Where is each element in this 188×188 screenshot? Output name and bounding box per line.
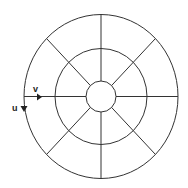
sector-divider (112, 107, 156, 154)
sector-divider (47, 39, 91, 86)
sector-divider (47, 107, 91, 154)
grid (24, 15, 178, 179)
v-axis-label: v (33, 84, 38, 94)
u-axis-label: u (12, 103, 18, 113)
u-axis-arrow (21, 106, 28, 112)
polar-grid-diagram: v u (0, 0, 188, 188)
inner-ring (86, 81, 116, 112)
sector-divider (112, 39, 156, 86)
u-arrowhead-icon (21, 106, 28, 112)
v-axis-arrow (37, 94, 42, 101)
v-arrowhead-icon (37, 94, 42, 101)
